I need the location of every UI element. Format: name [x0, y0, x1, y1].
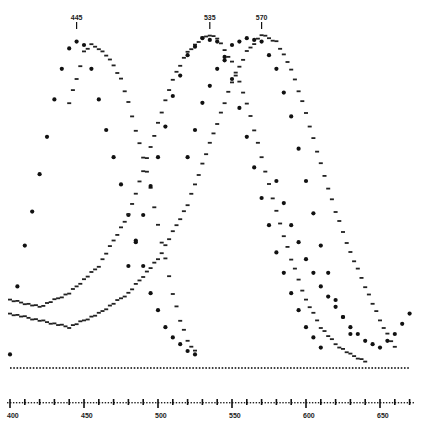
data-point [323, 330, 327, 332]
data-point [297, 308, 301, 312]
data-point [115, 72, 119, 74]
data-point [219, 42, 223, 44]
data-point [315, 151, 319, 153]
data-point [252, 165, 256, 169]
peak-tick [209, 22, 210, 29]
data-point [260, 156, 264, 158]
data-point [171, 230, 175, 232]
data-point [360, 277, 364, 279]
data-point [304, 325, 308, 329]
data-point [193, 184, 197, 186]
data-point [297, 279, 301, 281]
data-point [56, 324, 60, 326]
data-point [356, 268, 360, 270]
data-point [134, 238, 138, 242]
x-tick [68, 399, 70, 405]
data-point [23, 244, 27, 248]
data-point [263, 35, 267, 37]
data-point [104, 253, 108, 255]
data-point [334, 211, 338, 213]
data-point [330, 338, 334, 340]
data-point [319, 346, 323, 350]
data-point [245, 103, 249, 105]
data-point [167, 238, 171, 240]
data-point [12, 314, 16, 316]
data-point [389, 340, 393, 342]
data-point [360, 358, 364, 360]
data-point [230, 82, 234, 84]
x-tick [142, 399, 144, 405]
data-point [82, 320, 86, 322]
series-green-sensitive-peak-535- [8, 35, 367, 363]
x-tick [320, 399, 322, 405]
data-point [101, 310, 105, 312]
data-point [141, 213, 145, 217]
x-tick [113, 399, 115, 405]
data-point [89, 43, 93, 45]
data-point [293, 268, 297, 270]
data-point [241, 92, 245, 94]
data-point [126, 101, 130, 103]
x-tick-label: 600 [303, 412, 315, 419]
x-tick [394, 399, 396, 405]
data-point [104, 128, 108, 132]
data-point [374, 310, 378, 312]
data-point [30, 319, 34, 321]
data-point [300, 290, 304, 292]
data-point [123, 221, 127, 223]
x-tick [83, 399, 85, 408]
x-tick-label: 550 [229, 412, 241, 419]
series-red-sensitive-peak-570- [8, 34, 397, 347]
peak-tick [76, 22, 77, 29]
data-point [215, 40, 219, 44]
data-point [126, 264, 130, 268]
x-tick-label: 500 [155, 412, 167, 419]
data-point [334, 298, 338, 302]
data-point [82, 43, 86, 47]
data-point [260, 40, 264, 44]
data-point [408, 312, 412, 316]
data-point [260, 34, 264, 36]
series-green-sensitive-large-dots [126, 36, 323, 350]
data-point [286, 61, 290, 63]
data-point [149, 291, 153, 295]
data-point [101, 51, 105, 53]
data-point [197, 174, 201, 176]
data-point [160, 252, 164, 254]
data-point [274, 67, 278, 71]
data-point [49, 323, 53, 325]
data-point [186, 53, 190, 57]
data-point [19, 302, 23, 304]
data-point [138, 142, 142, 144]
data-point [112, 65, 116, 67]
data-point [204, 153, 208, 155]
data-point [237, 81, 241, 83]
data-point [156, 258, 160, 260]
data-point [178, 65, 182, 67]
data-point [193, 128, 197, 132]
data-point [112, 303, 116, 305]
data-point [337, 220, 341, 222]
data-point [352, 355, 356, 357]
data-point [119, 78, 123, 80]
data-point [193, 352, 197, 356]
data-point [38, 320, 42, 322]
x-tick-label: 450 [81, 412, 93, 419]
data-point [297, 147, 301, 151]
data-point [311, 271, 315, 275]
data-point [119, 297, 123, 299]
data-point [215, 38, 219, 40]
data-point [319, 327, 323, 329]
data-point [186, 155, 190, 159]
data-point [234, 75, 238, 77]
data-point [289, 114, 293, 118]
data-point [245, 135, 249, 139]
data-point [282, 271, 286, 275]
x-tick [335, 399, 337, 405]
data-point [56, 297, 60, 299]
data-point [101, 258, 105, 260]
data-point [60, 324, 64, 326]
data-point [219, 112, 223, 114]
data-point [156, 122, 160, 124]
data-point [41, 305, 45, 307]
